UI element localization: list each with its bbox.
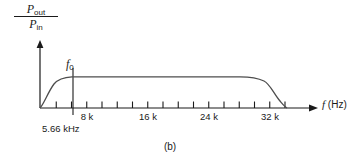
x-axis-ticks <box>56 102 285 109</box>
figure-caption: (b) <box>150 142 190 152</box>
f0-value-label: 5.66 kHz <box>42 124 80 134</box>
x-axis-label: f (Hz) <box>322 99 347 110</box>
tick-label-32k: 32 k <box>250 112 290 122</box>
y-axis-label: Pout Pin <box>14 3 58 30</box>
y-axis <box>37 40 44 108</box>
frequency-response-figure: Pout Pin f0 8 k 16 k 24 k 32 k f (Hz) 5.… <box>0 0 358 164</box>
y-axis-numerator: Pout <box>14 3 58 17</box>
tick-label-16k: 16 k <box>128 112 168 122</box>
tick-label-24k: 24 k <box>189 112 229 122</box>
y-axis-denominator: Pin <box>14 17 58 30</box>
tick-label-8k: 8 k <box>67 112 107 122</box>
f0-label: f0 <box>66 58 74 70</box>
